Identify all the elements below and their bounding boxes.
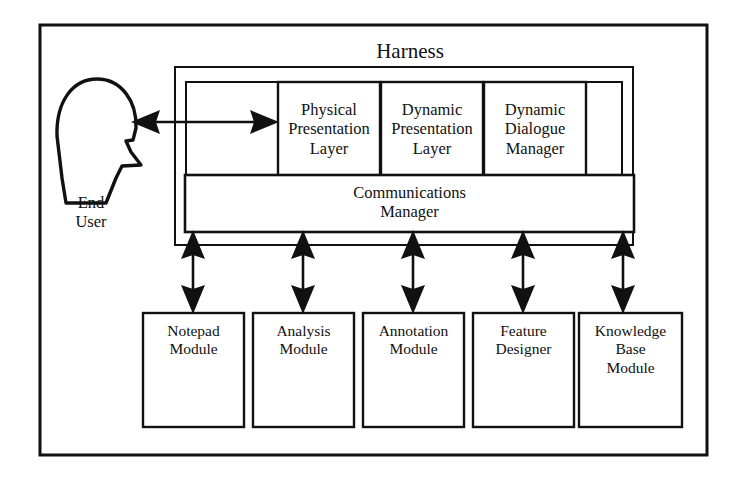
diagram-canvas: Harness Physical Presentation Layer Dyna… bbox=[0, 0, 744, 480]
knowledge-base-module-label: Knowledge Base Module bbox=[580, 314, 681, 434]
physical-presentation-layer-label: Physical Presentation Layer bbox=[279, 83, 379, 175]
dynamic-dialogue-manager-label: Dynamic Dialogue Manager bbox=[485, 83, 585, 175]
feature-designer-label: Feature Designer bbox=[474, 314, 573, 434]
annotation-module-label: Annotation Module bbox=[364, 314, 463, 434]
end-user-label: End User bbox=[41, 193, 141, 245]
notepad-module-label: Notepad Module bbox=[144, 314, 243, 434]
harness-title: Harness bbox=[300, 36, 520, 66]
dynamic-presentation-layer-label: Dynamic Presentation Layer bbox=[382, 83, 482, 175]
analysis-module-label: Analysis Module bbox=[254, 314, 353, 434]
communications-manager-label: Communications Manager bbox=[186, 176, 633, 228]
